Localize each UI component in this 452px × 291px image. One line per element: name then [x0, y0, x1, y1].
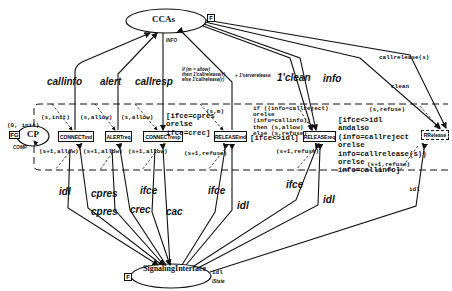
place-cp-label: CP: [27, 130, 39, 139]
guard-release-req: [ifce<>idl andalso (info=callreject orel…: [338, 116, 427, 175]
cp-arc-in-connect-resp: (s,allow): [121, 115, 153, 121]
cp-arc-in-alert: (s,allow): [80, 115, 112, 121]
arc-label-idl-2: idl: [237, 201, 249, 211]
ccas-fusion-tag: F: [207, 14, 215, 22]
signalling-interface-type-label: IState: [212, 279, 225, 284]
place-signalling-interface-label: SignalingInterface: [143, 265, 206, 273]
cp-arc-out-connect-resp: (s+1,allow): [128, 149, 168, 155]
ccas-type-label: INFO: [166, 38, 177, 43]
cp-arc-out-connect-ind: (s+1,allow): [39, 149, 79, 155]
cp-arc-out-alert: (s+1,allow): [83, 149, 123, 155]
arc-label-cac: cac: [166, 207, 183, 217]
cp-arc-in-connect-ind: (s,init): [41, 115, 70, 121]
arc-label-alert: alert: [100, 77, 121, 87]
arc-label-serverelease: + 1'serverelease: [235, 73, 270, 78]
cp-arc-out-release-ind: (s+1,refuse): [184, 151, 227, 157]
transition-alert-req[interactable]: ALERTreq: [105, 131, 132, 142]
arc-label-callinfo: callinfo: [47, 77, 82, 87]
arc-label-idl-3: idl: [323, 195, 335, 205]
arc-label-info: info: [323, 74, 341, 84]
cp-initial-marking: (0, init): [7, 123, 39, 129]
arc-label-crec: crec: [130, 205, 151, 215]
arc-label-cpres-1: cpres: [91, 189, 118, 199]
cp-type-label: COMP: [13, 145, 27, 150]
transition-connect-ind[interactable]: CONNECTind: [58, 131, 94, 142]
arc-label-clean: clean: [391, 84, 409, 90]
arc-label-ifce-3: ifce: [286, 180, 303, 190]
arc-label-1-clean: 1'clean: [277, 73, 311, 83]
release-ind-conditional-output: if ((info=callreject) orelse (info=calli…: [253, 106, 329, 137]
arc-label-conditional: if (m = allow) then 1'callrelease(r) els…: [182, 67, 225, 82]
transition-release-ind[interactable]: RELEASEind: [214, 131, 247, 142]
arc-label-callrelease: callrelease(s): [379, 55, 429, 61]
arc-label-idl-1: idl: [59, 187, 71, 197]
place-ccas-label: CCAs: [152, 15, 175, 24]
cp-fusion-tag: FG: [9, 131, 20, 139]
cp-arc-out-release-req: (s+1,refuse): [276, 149, 319, 155]
cp-arc-in-rrelease: (s,refuse): [369, 107, 405, 113]
arc-label-ifce-2: ifce: [208, 186, 225, 196]
arc-label-ifce-1: ifce: [140, 186, 157, 196]
arc-label-callresp: callresp: [135, 77, 173, 87]
signalling-interface-fusion-tag: F: [124, 273, 132, 281]
arc-label-cpres-2: cpres: [91, 207, 118, 217]
guard-connect-resp: [ifce=cpres orelse ifce=crec]: [166, 112, 215, 137]
signalling-interface-initial-marking: idl: [212, 270, 223, 276]
arc-label-idl-4: idl: [409, 187, 420, 193]
